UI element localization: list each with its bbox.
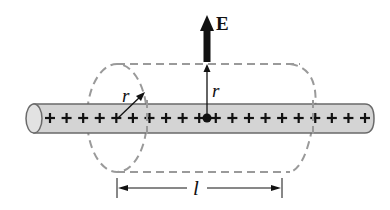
radius-label-center: r [212,80,220,101]
gaussian-cylinder-diagram: E r r l [0,0,390,210]
field-point-dot [203,114,212,123]
field-label: E [216,13,229,34]
radius-label-left: r [122,85,130,106]
rod-end-cap [26,104,42,133]
electric-field-arrow [200,15,214,62]
length-label: l [193,176,199,200]
length-dimension [117,178,282,198]
